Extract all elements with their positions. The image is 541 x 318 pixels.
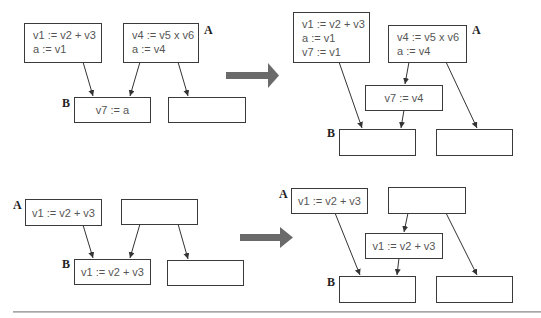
edge-arrow (178, 224, 188, 259)
right-arrow-icon (226, 63, 279, 88)
basic-block-a-after: v1 := v2 + v3 (291, 188, 368, 214)
basic-block-other-after (436, 276, 513, 303)
inserted-block: v1 := v2 + v3 (365, 233, 443, 259)
right-arrow-icon (240, 227, 293, 248)
code-line: v7 := v1 (302, 45, 369, 59)
code-line: v1 := v2 + v3 (302, 17, 369, 31)
edges-example2-before (83, 224, 188, 259)
diagram-canvas: v1 := v2 + v3 a := v1 v4 := v5 x v6 a :=… (0, 0, 541, 318)
block-label-b: B (62, 257, 70, 272)
code-line: v1 := v2 + v3 (32, 206, 95, 220)
code-line: v7 := a (96, 103, 129, 117)
code-line: v7 := v4 (385, 91, 424, 105)
basic-block-b: v7 := a (74, 97, 151, 123)
edge-arrow (446, 62, 477, 128)
block-label-a: A (204, 23, 213, 38)
code-line: v4 := v5 x v6 (132, 28, 198, 42)
code-line: v1 := v2 + v3 (373, 239, 436, 253)
code-line: a := v1 (33, 42, 101, 56)
code-line: a := v4 (132, 42, 198, 56)
code-line: v1 := v2 + v3 (298, 194, 361, 208)
block-label-b: B (327, 275, 335, 290)
basic-block-b: v1 := v2 + v3 (74, 259, 151, 285)
edge-arrow (339, 62, 362, 128)
edge-arrow (130, 224, 140, 258)
block-label-a: A (13, 198, 22, 213)
edge-arrow (335, 213, 360, 275)
basic-block-b-after (339, 129, 416, 156)
edge-arrow (401, 110, 404, 128)
edge-arrow (178, 62, 188, 96)
basic-block-right (121, 199, 198, 225)
basic-block-other (167, 260, 244, 286)
edge-arrow (405, 62, 409, 84)
basic-block-a-right: v4 := v5 x v6 a := v4 (123, 23, 199, 63)
inserted-block: v7 := v4 (365, 85, 443, 111)
basic-block-other-after (436, 129, 513, 156)
edges-example1-before (83, 62, 188, 96)
code-line: v1 := v2 + v3 (33, 28, 101, 42)
basic-block-other (168, 97, 246, 123)
basic-block-right-after (388, 187, 466, 214)
basic-block-a-left: v1 := v2 + v3 a := v1 (24, 23, 102, 63)
edge-arrow (83, 62, 93, 96)
divider-line (13, 311, 541, 313)
code-line: a := v4 (397, 44, 466, 58)
basic-block-a-right-after: v4 := v5 x v6 a := v4 (388, 25, 467, 63)
block-label-a: A (279, 187, 288, 202)
edge-arrow (83, 225, 93, 258)
block-label-b: B (62, 96, 70, 111)
basic-block-b-after (339, 276, 416, 303)
basic-block-a-left-after: v1 := v2 + v3 a := v1 v7 := v1 (293, 12, 370, 63)
code-line: a := v1 (302, 31, 369, 45)
block-label-a: A (472, 23, 481, 38)
edge-arrow (404, 213, 408, 232)
edge-arrow (446, 213, 477, 275)
code-line: v1 := v2 + v3 (81, 265, 144, 279)
basic-block-a: v1 := v2 + v3 (25, 199, 102, 226)
block-label-b: B (327, 126, 335, 141)
edge-arrow (397, 258, 399, 275)
edge-arrow (130, 62, 140, 96)
code-line: v4 := v5 x v6 (397, 30, 466, 44)
